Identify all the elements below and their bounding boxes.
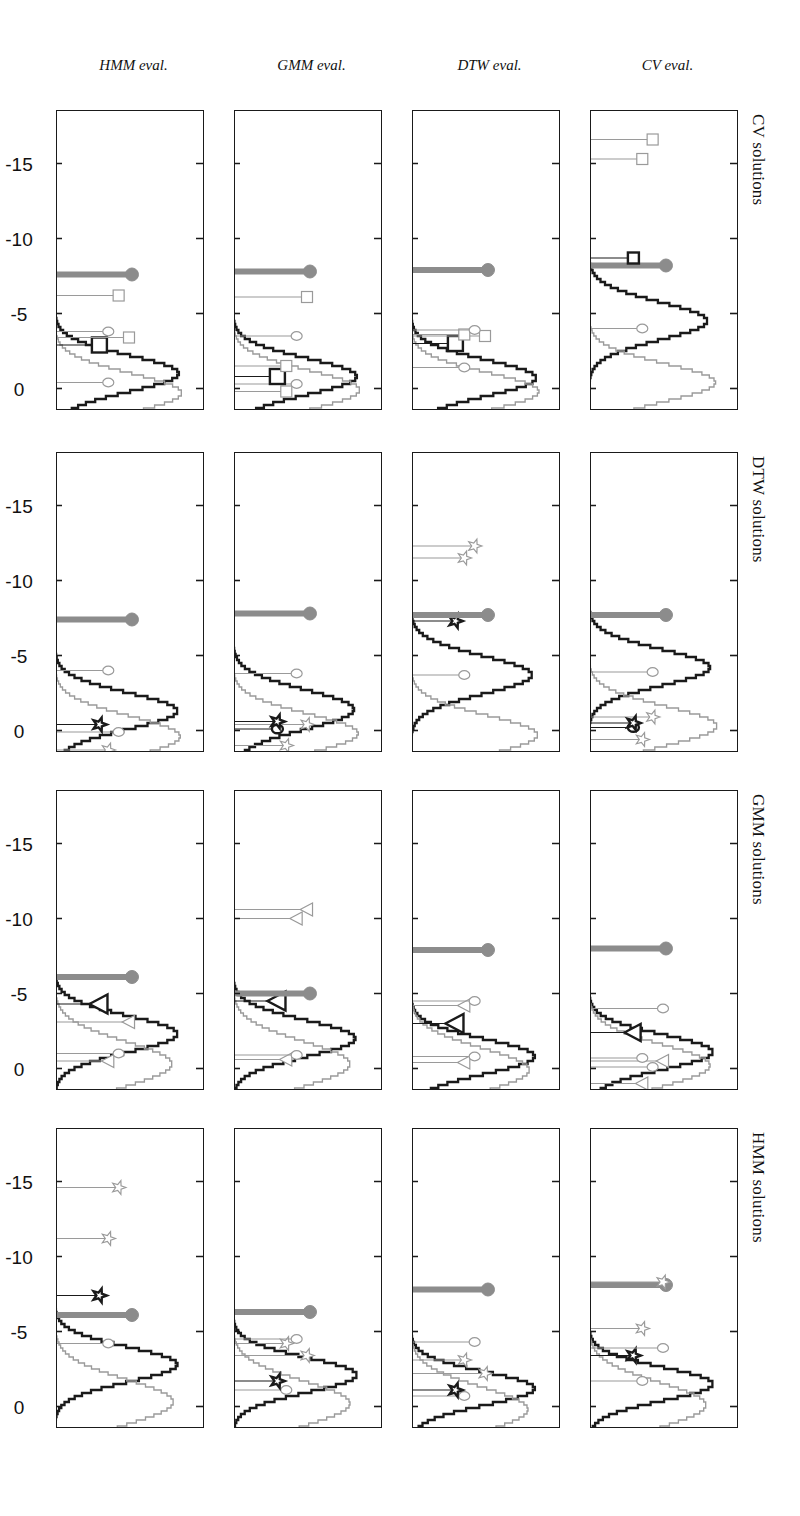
density-curve-dark	[590, 111, 707, 410]
density-curve-dark	[412, 111, 536, 410]
panel-grid: CV solutionsDTW solutionsGMM solutionsHM…	[0, 0, 800, 1516]
axis-tick-label: 0	[0, 721, 39, 743]
marker-circle	[113, 728, 124, 737]
density-curve-dark	[412, 1129, 535, 1428]
axis-tick-label: -5	[0, 646, 39, 668]
marker-square	[281, 386, 292, 397]
marker-reference	[481, 944, 494, 957]
plot-panel	[590, 1128, 738, 1428]
panel-plot-area	[234, 791, 381, 1090]
panel-plot-area	[56, 1129, 203, 1428]
marker-reference	[125, 1309, 138, 1322]
marker-circle	[103, 666, 114, 675]
panel-plot-area	[412, 111, 559, 410]
axis-tick-label: -15	[0, 154, 39, 176]
plot-panel	[412, 452, 560, 752]
marker-circle	[113, 1049, 124, 1058]
marker-reference	[125, 268, 138, 281]
density-curve-dark	[234, 791, 356, 1090]
axis-tick-label: -15	[0, 496, 39, 518]
marker-reference	[481, 1283, 494, 1296]
panel-plot-area	[234, 111, 381, 410]
density-curve-light	[590, 1129, 706, 1428]
marker-circle	[291, 332, 302, 341]
marker-circle	[459, 1392, 470, 1401]
density-curve-dark	[234, 453, 354, 752]
plot-panel	[56, 1128, 204, 1428]
axis-tick-label: -10	[0, 229, 39, 251]
plot-panel	[234, 790, 382, 1090]
marker-square	[113, 290, 124, 301]
plot-panel	[234, 110, 382, 410]
marker-reference	[481, 609, 494, 622]
plot-panel	[412, 1128, 560, 1428]
plot-panel	[234, 1128, 382, 1428]
marker-reference	[303, 607, 316, 620]
plot-panel	[412, 110, 560, 410]
density-curve-light	[412, 111, 539, 410]
marker-square	[302, 292, 313, 303]
plot-panel	[56, 452, 204, 752]
row-label-dtw: DTW eval.	[435, 57, 545, 74]
panel-plot-area	[590, 1129, 737, 1428]
marker-star	[94, 1289, 107, 1303]
marker-circle	[658, 1004, 669, 1013]
marker-circle	[647, 1063, 658, 1072]
plot-panel	[590, 110, 738, 410]
marker-triangle	[122, 1016, 134, 1029]
axis-tick-label: 0	[0, 1059, 39, 1081]
marker-square	[281, 361, 292, 372]
panel-plot-area	[412, 453, 559, 752]
marker-square	[459, 329, 470, 340]
density-curve-light	[590, 791, 710, 1090]
axis-tick-label: -5	[0, 1322, 39, 1344]
density-curve-light	[412, 453, 537, 752]
panel-plot-area	[590, 453, 737, 752]
density-curve-light	[234, 453, 358, 752]
marker-square	[92, 338, 107, 353]
marker-reference	[125, 971, 138, 984]
marker-circle	[637, 324, 648, 333]
marker-circle	[103, 1339, 114, 1348]
density-curve-dark	[234, 111, 357, 410]
plot-panel	[590, 452, 738, 752]
marker-reference	[659, 259, 672, 272]
panel-plot-area	[234, 453, 381, 752]
marker-reference	[303, 265, 316, 278]
marker-circle	[637, 1054, 648, 1063]
marker-circle	[459, 671, 470, 680]
density-curve-light	[590, 111, 716, 410]
axis-tick-label: -5	[0, 984, 39, 1006]
marker-triangle	[635, 1077, 647, 1090]
marker-circle	[291, 669, 302, 678]
density-curve-dark	[234, 1129, 356, 1428]
panel-plot-area	[56, 791, 203, 1090]
density-curve-light	[234, 791, 350, 1090]
marker-circle	[658, 1344, 669, 1353]
marker-circle	[281, 1386, 292, 1395]
marker-square	[480, 331, 491, 342]
plot-panel	[590, 790, 738, 1090]
axis-tick-label: -10	[0, 909, 39, 931]
marker-reference	[125, 613, 138, 626]
marker-circle	[469, 1338, 480, 1347]
axis-tick-label: -5	[0, 304, 39, 326]
marker-triangle	[101, 1055, 113, 1068]
marker-reference	[659, 609, 672, 622]
figure-rotator: CV solutionsDTW solutionsGMM solutionsHM…	[0, 0, 800, 1516]
marker-triangle	[457, 1056, 469, 1069]
axis-tick-label: 0	[0, 1397, 39, 1419]
density-curve-light	[56, 453, 180, 752]
column-header-cv: CV solutions	[748, 114, 768, 205]
marker-circle	[291, 1335, 302, 1344]
marker-circle	[637, 1377, 648, 1386]
panel-plot-area	[590, 791, 737, 1090]
row-label-cv: CV eval.	[613, 57, 723, 74]
marker-circle	[291, 1051, 302, 1060]
density-curve-dark	[56, 1129, 178, 1428]
marker-triangle	[290, 912, 302, 925]
marker-reference	[659, 942, 672, 955]
row-label-hmm: HMM eval.	[79, 57, 189, 74]
column-header-gmm: GMM solutions	[748, 794, 768, 905]
axis-tick-label: -15	[0, 834, 39, 856]
